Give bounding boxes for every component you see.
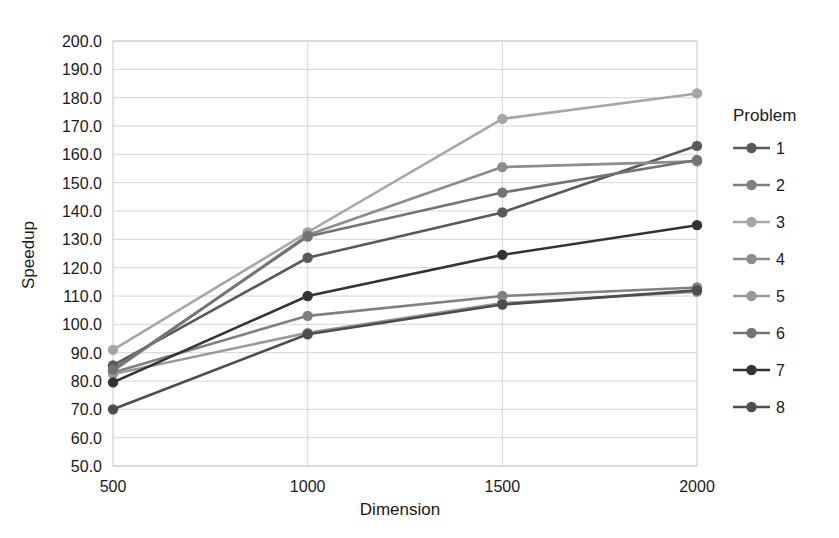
legend-item-6[interactable]: 6 [733,325,785,342]
y-tick-label: 70.0 [71,401,102,418]
data-point [108,345,118,355]
data-point [497,207,507,217]
legend-item-label: 6 [776,325,785,342]
data-point [497,299,507,309]
series-6 [108,155,702,375]
data-point [302,329,312,339]
y-tick-label: 90.0 [71,345,102,362]
legend-swatch-marker [746,143,756,153]
data-point [497,162,507,172]
chart-container: 50.060.070.080.090.0100.0110.0120.0130.0… [0,0,839,538]
line-chart: 50.060.070.080.090.0100.0110.0120.0130.0… [0,0,839,538]
series-8 [108,285,702,414]
x-tick-label: 2000 [679,478,715,495]
series-7 [108,220,702,388]
x-axis-title: Dimension [360,500,440,519]
y-tick-label: 200.0 [62,33,102,50]
legend-item-7[interactable]: 7 [733,362,785,379]
y-tick-label: 170.0 [62,118,102,135]
legend-item-label: 4 [776,251,785,268]
y-tick-label: 160.0 [62,146,102,163]
data-point [692,220,702,230]
series-3 [108,88,702,355]
data-point [302,253,312,263]
series-line-6 [113,160,697,370]
legend: Problem12345678 [733,106,796,416]
legend-item-5[interactable]: 5 [733,288,785,305]
series-line-7 [113,225,697,382]
data-point [302,231,312,241]
x-tick-label: 1500 [485,478,521,495]
y-tick-label: 80.0 [71,373,102,390]
legend-swatch-marker [746,217,756,227]
x-tick-label: 1000 [290,478,326,495]
legend-title: Problem [733,106,796,125]
series-line-1 [113,146,697,366]
data-point [692,155,702,165]
legend-swatch-marker [746,291,756,301]
legend-item-8[interactable]: 8 [733,399,785,416]
y-tick-label: 130.0 [62,231,102,248]
data-series-group [108,88,702,414]
legend-item-label: 5 [776,288,785,305]
legend-swatch-marker [746,365,756,375]
legend-item-label: 2 [776,177,785,194]
data-point [302,291,312,301]
series-line-5 [113,292,697,374]
data-point [692,285,702,295]
legend-item-label: 1 [776,140,785,157]
x-tick-label: 500 [100,478,127,495]
y-tick-label: 50.0 [71,458,102,475]
legend-item-label: 3 [776,214,785,231]
data-point [692,88,702,98]
y-axis-tick-labels: 50.060.070.080.090.0100.0110.0120.0130.0… [62,33,102,475]
legend-item-3[interactable]: 3 [733,214,785,231]
data-point [108,404,118,414]
y-tick-label: 100.0 [62,316,102,333]
x-axis-tick-labels: 500100015002000 [100,478,715,495]
y-tick-label: 120.0 [62,260,102,277]
y-tick-label: 140.0 [62,203,102,220]
legend-item-label: 7 [776,362,785,379]
legend-swatch-marker [746,180,756,190]
series-line-2 [113,288,697,373]
y-tick-label: 150.0 [62,175,102,192]
y-tick-label: 110.0 [63,288,102,305]
y-tick-label: 180.0 [62,90,102,107]
series-4 [108,156,702,376]
legend-swatch-marker [746,254,756,264]
legend-item-4[interactable]: 4 [733,251,785,268]
y-axis-title: Speedup [19,221,38,289]
data-point [108,364,118,374]
data-point [108,377,118,387]
y-tick-label: 190.0 [62,61,102,78]
legend-swatch-marker [746,328,756,338]
legend-swatch-marker [746,402,756,412]
y-tick-label: 60.0 [71,430,102,447]
data-point [497,250,507,260]
data-point [497,187,507,197]
legend-item-1[interactable]: 1 [733,140,785,157]
data-point [692,141,702,151]
data-point [497,114,507,124]
data-point [302,311,312,321]
legend-item-label: 8 [776,399,785,416]
series-line-4 [113,161,697,371]
legend-item-2[interactable]: 2 [733,177,785,194]
